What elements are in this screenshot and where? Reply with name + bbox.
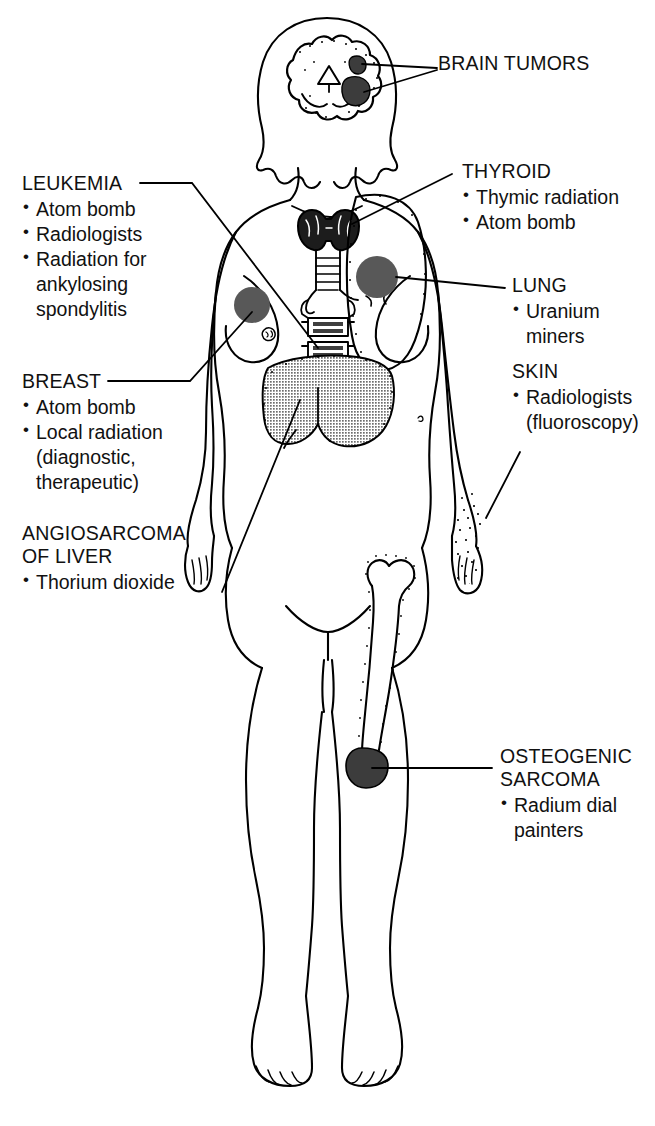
lung-tumor-marker [356,256,398,298]
brain-cross-section [287,36,381,120]
label-angiosarcoma-of-liver-list: Thorium dioxide [22,570,186,595]
list-item-continuation: therapeutic) [22,470,163,495]
list-item: Radiation for [22,247,147,272]
label-breast-title: BREAST [22,370,163,393]
head-outline [257,18,397,200]
leader-brain-upper [362,64,437,68]
list-item: Thymic radiation [462,185,619,210]
label-osteogenic-sarcoma-list: Radium dial painters [500,793,632,843]
label-lung-list: Uranium miners [512,299,655,349]
label-brain-tumors-title: BRAIN TUMORS [438,52,590,75]
brain-tumor-marker-upper [349,56,366,74]
list-item: Radiologists [512,385,639,410]
leader-brain-lower [364,70,437,92]
label-breast: BREAST Atom bomb Local radiation (diagno… [22,370,163,495]
leader-liver [222,400,300,592]
label-angiosarcoma-of-liver-title: ANGIOSARCOMA OF LIVER [22,522,186,568]
trachea [306,250,358,313]
leader-lung [396,277,505,288]
list-item: Uranium miners [512,299,655,349]
label-skin: SKIN Radiologists (fluoroscopy) [512,360,639,435]
label-leukemia-list: Atom bomb Radiologists Radiation for ank… [22,197,147,322]
list-item-continuation: (diagnostic, [22,445,163,470]
list-item-continuation: painters [500,818,632,843]
label-brain-tumors: BRAIN TUMORS [438,52,590,75]
label-thyroid-title: THYROID [462,160,619,183]
radiation-cancer-diagram: BRAIN TUMORS THYROID Thymic radiation At… [0,0,655,1126]
list-item: Thorium dioxide [22,570,186,595]
femur-bone [362,560,414,752]
list-item: Local radiation [22,420,163,445]
list-item-continuation: ankylosing [22,272,147,297]
label-breast-list: Atom bomb Local radiation (diagnostic, t… [22,395,163,495]
label-lung-title: LUNG [512,274,655,297]
list-item: Radiologists [22,222,147,247]
list-item: Atom bomb [22,395,163,420]
femur-stipple [358,554,416,743]
label-angiosarcoma-of-liver: ANGIOSARCOMA OF LIVER Thorium dioxide [22,522,186,595]
label-osteogenic-sarcoma: OSTEOGENIC SARCOMA Radium dial painters [500,745,632,843]
label-thyroid: THYROID Thymic radiation Atom bomb [462,160,619,235]
liver-organ [263,356,394,449]
list-item-continuation: (fluoroscopy) [512,410,639,435]
label-leukemia-title: LEUKEMIA [22,172,147,195]
list-item: Atom bomb [462,210,619,235]
leader-skin [486,452,520,518]
legs-outline [246,606,408,1086]
label-skin-list: Radiologists (fluoroscopy) [512,385,639,435]
list-item: Atom bomb [22,197,147,222]
label-thyroid-list: Thymic radiation Atom bomb [462,185,619,235]
list-item-continuation: spondylitis [22,297,147,322]
label-lung: LUNG Uranium miners [512,274,655,349]
leader-leukemia [140,183,318,348]
list-item: Radium dial [500,793,632,818]
label-skin-title: SKIN [512,360,639,383]
label-osteogenic-sarcoma-title: OSTEOGENIC SARCOMA [500,745,632,791]
breast-tumor-marker [234,287,270,323]
label-leukemia: LEUKEMIA Atom bomb Radiologists Radiatio… [22,172,147,322]
